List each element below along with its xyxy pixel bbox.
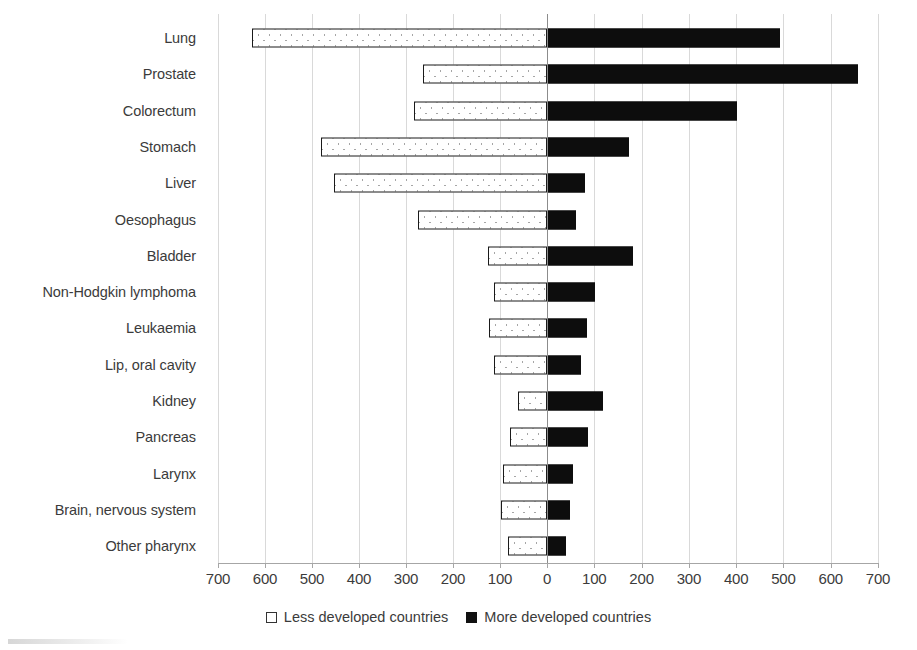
- x-tick-9: [642, 563, 643, 568]
- bar-less-developed-0: [252, 29, 547, 48]
- bar-less-developed-7: [494, 283, 547, 302]
- bar-less-developed-2: [414, 101, 547, 120]
- x-tick-12: [783, 563, 784, 568]
- bar-more-developed-1: [547, 65, 858, 84]
- category-label-kidney: Kidney: [0, 393, 196, 409]
- x-tick-0: [218, 563, 219, 568]
- x-tick-11: [736, 563, 737, 568]
- gridline-9: [642, 14, 643, 563]
- bar-more-developed-10: [547, 392, 603, 411]
- bar-more-developed-3: [547, 137, 629, 156]
- legend-entry-more-developed[interactable]: More developed countries: [466, 609, 651, 625]
- bar-more-developed-14: [547, 537, 566, 556]
- gridline-13: [831, 14, 832, 563]
- category-label-pancreas: Pancreas: [0, 429, 196, 445]
- x-tick-8: [594, 563, 595, 568]
- bar-less-developed-6: [488, 246, 547, 265]
- bar-more-developed-4: [547, 174, 585, 193]
- legend-label-less-developed: Less developed countries: [284, 609, 448, 625]
- page-artifact: [8, 639, 128, 644]
- category-label-lip-oral-cavity: Lip, oral cavity: [0, 357, 196, 373]
- filled-square-icon: [466, 612, 477, 623]
- bar-less-developed-3: [321, 137, 547, 156]
- x-tick-6: [500, 563, 501, 568]
- x-tick-2: [312, 563, 313, 568]
- gridline-10: [689, 14, 690, 563]
- gridline-12: [783, 14, 784, 563]
- x-tick-7: [547, 563, 548, 568]
- x-tick-13: [831, 563, 832, 568]
- category-label-other-pharynx: Other pharynx: [0, 538, 196, 554]
- gridline-5: [453, 14, 454, 563]
- category-label-brain-nervous-system: Brain, nervous system: [0, 502, 196, 518]
- bar-more-developed-12: [547, 464, 573, 483]
- category-label-colorectum: Colorectum: [0, 103, 196, 119]
- x-tick-3: [359, 563, 360, 568]
- bar-more-developed-8: [547, 319, 587, 338]
- bar-more-developed-9: [547, 355, 581, 374]
- x-tick-10: [689, 563, 690, 568]
- bar-less-developed-11: [510, 428, 547, 447]
- plot-area: [218, 14, 878, 563]
- bar-less-developed-14: [508, 537, 547, 556]
- bar-less-developed-5: [418, 210, 547, 229]
- x-axis-line: [218, 563, 879, 564]
- bar-less-developed-10: [518, 392, 547, 411]
- category-label-liver: Liver: [0, 175, 196, 191]
- bar-less-developed-8: [489, 319, 547, 338]
- gridline-11: [736, 14, 737, 563]
- bar-more-developed-2: [547, 101, 737, 120]
- bar-more-developed-0: [547, 29, 780, 48]
- category-label-larynx: Larynx: [0, 466, 196, 482]
- x-tick-label-14: 700: [848, 570, 908, 587]
- x-tick-5: [453, 563, 454, 568]
- gridline-4: [406, 14, 407, 563]
- bar-less-developed-9: [494, 355, 547, 374]
- cancer-incidence-diverging-bar-chart: 7006005004003002001000100200300400500600…: [0, 0, 917, 650]
- chart-legend: Less developed countries More developed …: [0, 609, 917, 625]
- bar-less-developed-13: [501, 500, 547, 519]
- gridline-1: [265, 14, 266, 563]
- category-label-lung: Lung: [0, 30, 196, 46]
- gridline-2: [312, 14, 313, 563]
- bar-less-developed-12: [503, 464, 547, 483]
- gridline-0: [218, 14, 219, 563]
- category-label-non-hodgkin-lymphoma: Non-Hodgkin lymphoma: [0, 284, 196, 300]
- category-label-leukaemia: Leukaemia: [0, 320, 196, 336]
- bar-less-developed-1: [423, 65, 547, 84]
- legend-label-more-developed: More developed countries: [484, 609, 651, 625]
- empty-square-icon: [266, 612, 277, 623]
- category-label-oesophagus: Oesophagus: [0, 212, 196, 228]
- bar-more-developed-7: [547, 283, 595, 302]
- bar-more-developed-6: [547, 246, 633, 265]
- bar-more-developed-5: [547, 210, 576, 229]
- x-tick-1: [265, 563, 266, 568]
- x-tick-4: [406, 563, 407, 568]
- category-label-stomach: Stomach: [0, 139, 196, 155]
- x-tick-14: [878, 563, 879, 568]
- category-label-bladder: Bladder: [0, 248, 196, 264]
- category-label-prostate: Prostate: [0, 66, 196, 82]
- bar-more-developed-13: [547, 500, 570, 519]
- gridline-14: [878, 14, 879, 563]
- legend-entry-less-developed[interactable]: Less developed countries: [266, 609, 448, 625]
- bar-less-developed-4: [334, 174, 547, 193]
- bar-more-developed-11: [547, 428, 588, 447]
- gridline-3: [359, 14, 360, 563]
- zero-axis-line: [547, 14, 548, 563]
